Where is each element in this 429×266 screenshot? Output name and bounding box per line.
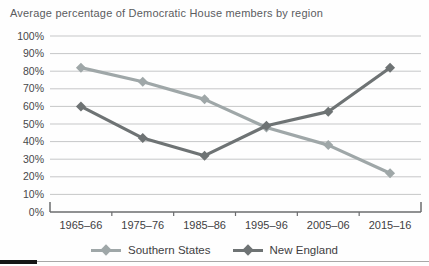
line-chart: 0%10%20%30%40%50%60%70%80%90%100%1965–66…	[0, 24, 429, 238]
southern-states-line-marker-icon	[91, 245, 121, 255]
chart-page: Average percentage of Democratic House m…	[0, 0, 429, 266]
bottom-divider-accent	[0, 260, 37, 264]
y-tick-label: 30%	[23, 153, 44, 165]
legend-item-southern-states: Southern States	[91, 244, 210, 256]
chart-legend: Southern States New England	[0, 241, 429, 259]
diamond-icon	[242, 244, 253, 255]
x-tick-label: 2005–06	[307, 219, 350, 231]
x-tick-label: 1995–96	[245, 219, 288, 231]
y-tick-label: 10%	[23, 188, 44, 200]
data-point-marker-southern-states	[138, 77, 148, 87]
legend-item-new-england: New England	[233, 244, 338, 256]
y-tick-label: 0%	[29, 206, 44, 218]
y-tick-label: 60%	[23, 100, 44, 112]
legend-label-southern-states: Southern States	[128, 244, 210, 256]
x-tick-label: 1985–86	[183, 219, 226, 231]
legend-label-new-england: New England	[270, 244, 338, 256]
y-tick-label: 40%	[23, 135, 44, 147]
series-line-new-england	[81, 68, 390, 156]
y-tick-label: 20%	[23, 170, 44, 182]
y-tick-label: 50%	[23, 118, 44, 130]
chart-title: Average percentage of Democratic House m…	[10, 7, 323, 19]
y-tick-label: 100%	[17, 30, 44, 42]
x-tick-label: 2015–16	[369, 219, 412, 231]
series-line-southern-states	[81, 68, 390, 174]
y-tick-label: 80%	[23, 65, 44, 77]
data-point-marker-southern-states	[200, 94, 210, 104]
new-england-line-marker-icon	[233, 245, 263, 255]
y-tick-label: 90%	[23, 47, 44, 59]
x-tick-label: 1975–76	[121, 219, 164, 231]
bottom-divider	[0, 261, 429, 262]
x-tick-label: 1965–66	[60, 219, 103, 231]
diamond-icon	[100, 244, 111, 255]
y-tick-label: 70%	[23, 82, 44, 94]
